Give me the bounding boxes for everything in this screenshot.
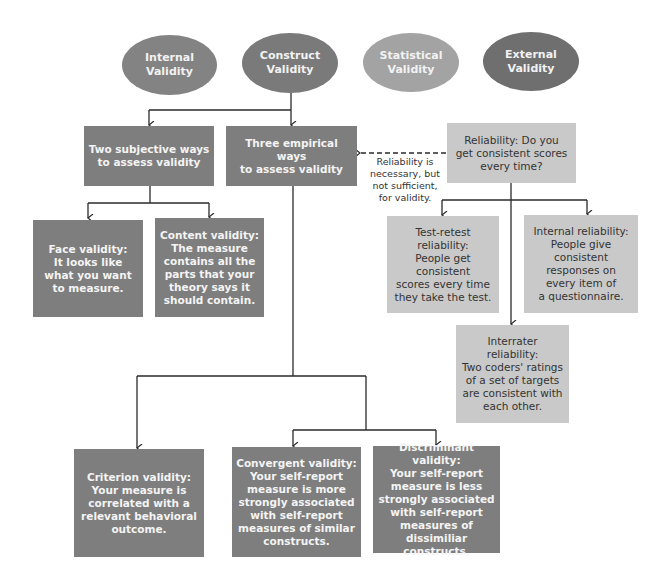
discriminant-validity-box: Discriminant validity: Your self-report … [373, 446, 500, 553]
statistical-validity-oval: Statistical Validity [363, 33, 459, 92]
test-retest-reliability-box: Test-retest reliability: People get cons… [387, 216, 499, 313]
subjective-ways-box: Two subjective ways to assess validity [84, 126, 214, 186]
content-validity-box: Content validity: The measure contains a… [155, 218, 264, 317]
reliability-box: Reliability: Do you get consistent score… [447, 123, 576, 183]
criterion-validity-box: Criterion validity: Your measure is corr… [74, 449, 204, 557]
internal-reliability-box: Internal reliability: People give consis… [524, 215, 638, 313]
internal-validity-oval: Internal Validity [122, 35, 217, 95]
face-validity-box: Face validity: It looks like what you wa… [33, 220, 143, 317]
external-validity-oval: External Validity [483, 32, 579, 91]
construct-validity-oval: Construct Validity [242, 33, 338, 93]
convergent-validity-box: Convergent validity: Your self-report me… [232, 447, 361, 557]
interrater-reliability-box: Interrater reliability: Two coders' rati… [456, 325, 569, 423]
reliability-note: Reliability is necessary, but not suffic… [364, 156, 446, 204]
validity-diagram: Internal Validity Construct Validity Sta… [0, 0, 663, 575]
empirical-ways-box: Three empirical ways to assess validity [226, 126, 357, 186]
